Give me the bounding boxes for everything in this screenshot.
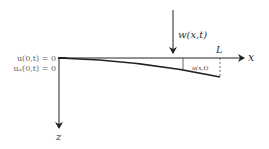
z-axis-label: z [55,131,62,142]
x-axis-label: x [248,51,255,64]
bc-slope: uₓ(0,t) = 0 [13,64,56,73]
deflection-label: u(x,t) [192,64,209,71]
load-label: w(x,t) [178,29,207,40]
bc-displacement: u(0,t) = 0 [17,54,56,63]
beam-diagram: w(x,t) L x z u(x,t) u(0,t) = 0 uₓ(0,t) =… [0,0,269,149]
length-label: L [215,44,223,55]
